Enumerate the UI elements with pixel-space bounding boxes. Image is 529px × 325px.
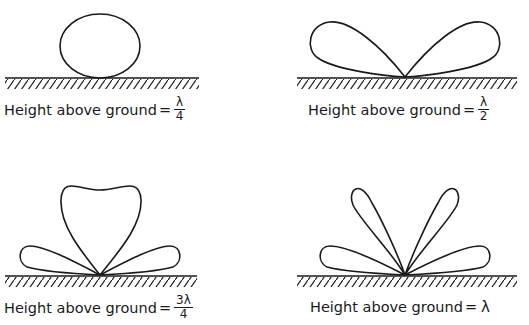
outer-right-lobe [405, 246, 490, 275]
ground-hatch [297, 79, 517, 89]
outer-left-lobe [320, 246, 405, 275]
fraction-numerator: λ [174, 96, 185, 110]
fraction-numerator: 3λ [174, 294, 193, 308]
caption-three-quarter-wavelength: Height above ground = 3λ 4 [4, 294, 193, 321]
caption-full-wavelength: Height above ground = λ [310, 298, 490, 316]
caption-quarter-wavelength: Height above ground = λ 4 [4, 96, 185, 123]
panel-full-wavelength [297, 189, 517, 287]
left-lobe [310, 22, 405, 77]
ground-hatch [297, 277, 517, 287]
panel-half-wavelength [297, 22, 517, 89]
panel-three-quarter-wavelength [5, 186, 197, 287]
right-lobe [405, 22, 500, 77]
main-lobe [60, 14, 140, 78]
fraction-denominator: 4 [176, 110, 184, 123]
equals-sign: = [465, 299, 477, 315]
caption-text: Height above ground [4, 300, 157, 316]
fraction: λ 2 [478, 96, 489, 123]
caption-half-wavelength: Height above ground = λ 2 [308, 96, 489, 123]
caption-text: Height above ground [308, 102, 461, 118]
fraction-denominator: 4 [180, 308, 188, 321]
fraction-numerator: λ [478, 96, 489, 110]
fraction: 3λ 4 [174, 294, 193, 321]
ground-hatch [5, 79, 199, 89]
diagram-canvas [0, 0, 529, 325]
panel-quarter-wavelength [5, 14, 199, 89]
equals-sign: = [159, 102, 171, 118]
caption-text: Height above ground [4, 102, 157, 118]
equals-sign: = [159, 300, 171, 316]
equals-sign: = [463, 102, 475, 118]
wavelength-value: λ [481, 298, 490, 316]
fraction: λ 4 [174, 96, 185, 123]
fraction-denominator: 2 [480, 110, 488, 123]
caption-text: Height above ground [310, 299, 463, 315]
ground-hatch [5, 277, 197, 287]
